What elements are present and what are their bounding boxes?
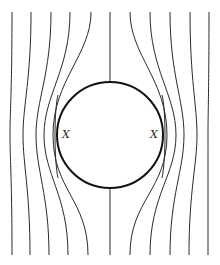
field-line: [53, 12, 91, 255]
circular-obstacle: [57, 82, 163, 188]
field-line: [208, 12, 209, 255]
label-left-x: X: [62, 128, 70, 141]
field-line: [170, 12, 184, 255]
field-diagram: [0, 0, 220, 265]
field-line: [189, 12, 197, 255]
label-right-x: X: [150, 128, 158, 141]
field-line: [23, 12, 31, 255]
field-lines: [10, 12, 209, 255]
field-line: [36, 12, 51, 255]
field-line: [130, 12, 167, 255]
field-line: [10, 12, 12, 255]
